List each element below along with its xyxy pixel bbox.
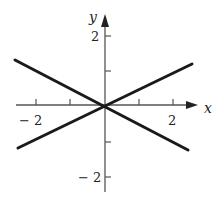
x-tick-label-pos2: 2 [168, 113, 176, 128]
y-axis-label: y [88, 9, 98, 25]
y-axis-arrow-icon [101, 14, 109, 27]
y-tick-label-neg2: − 2 [78, 170, 101, 185]
graph: y x − 2 2 2 − 2 [0, 0, 223, 200]
y-tick-label-pos2: 2 [91, 29, 99, 44]
x-axis-arrow-icon [186, 101, 198, 109]
x-axis-label: x [204, 100, 212, 116]
x-tick-label-neg2: − 2 [19, 113, 42, 128]
